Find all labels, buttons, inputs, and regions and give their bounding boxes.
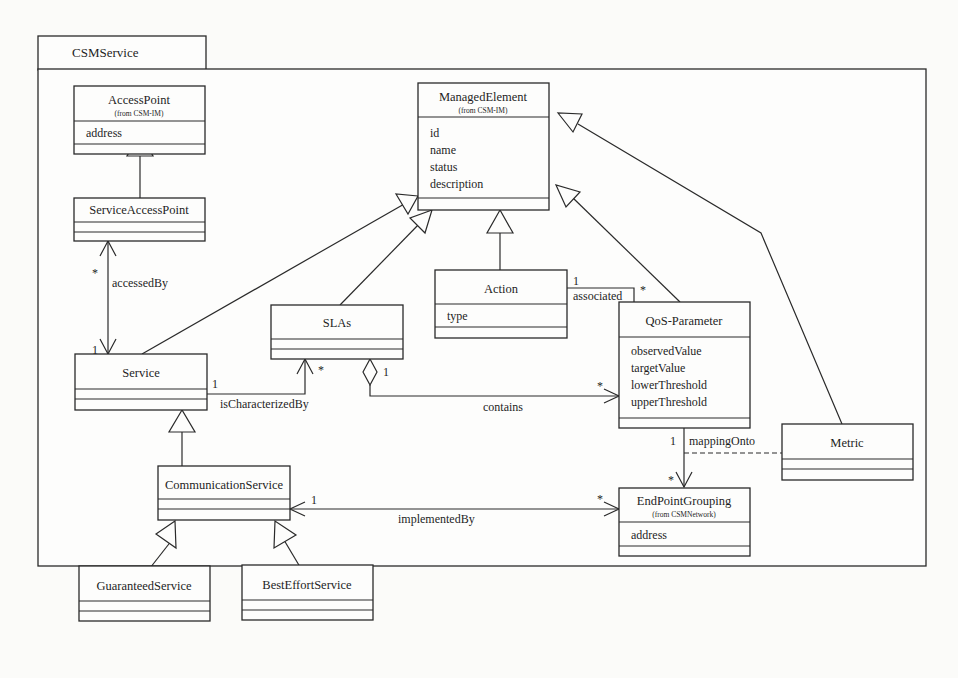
association-label: accessedBy [112, 276, 168, 290]
class-besteffortservice[interactable]: BestEffortService [242, 565, 373, 620]
class-name: Metric [830, 436, 864, 450]
multiplicity: * [640, 283, 646, 297]
association-label: associated [573, 289, 622, 303]
multiplicity: * [597, 379, 603, 393]
class-attribute: lowerThreshold [631, 378, 707, 392]
class-attribute: address [631, 528, 667, 542]
multiplicity: 1 [212, 377, 218, 391]
class-service[interactable]: Service [75, 354, 207, 410]
uml-class-diagram: CSMService * accessedBy 1 [0, 0, 958, 678]
class-guaranteedservice[interactable]: GuaranteedService [79, 566, 210, 621]
class-name: EndPointGrouping [637, 494, 732, 508]
class-origin: (from CSM-IM) [459, 106, 508, 115]
class-attribute: targetValue [631, 361, 685, 375]
class-name: BestEffortService [262, 578, 352, 592]
class-communicationservice[interactable]: CommunicationService [158, 466, 290, 520]
class-qos-parameter[interactable]: QoS-Parameter observedValue targetValue … [619, 302, 750, 428]
association-label: implementedBy [398, 512, 475, 526]
multiplicity: 1 [311, 493, 317, 507]
class-slas[interactable]: SLAs [271, 305, 403, 359]
class-name: ServiceAccessPoint [89, 203, 189, 217]
class-attribute: type [447, 309, 468, 323]
class-attribute: id [430, 126, 439, 140]
class-endpointgrouping[interactable]: EndPointGrouping (from CSMNetwork) addre… [619, 488, 750, 556]
class-managedelement[interactable]: ManagedElement (from CSM-IM) id name sta… [418, 83, 549, 210]
class-name: CommunicationService [165, 478, 283, 492]
class-name: Action [484, 282, 519, 296]
multiplicity: * [668, 473, 674, 487]
association-label: contains [483, 400, 523, 414]
class-action[interactable]: Action type [435, 270, 567, 338]
multiplicity: * [318, 363, 324, 377]
class-attribute: observedValue [631, 344, 702, 358]
package-name: CSMService [72, 45, 139, 60]
class-name: ManagedElement [439, 90, 528, 104]
class-origin: (from CSM-IM) [115, 109, 164, 118]
multiplicity: * [597, 492, 603, 506]
class-accesspoint[interactable]: AccessPoint (from CSM-IM) address [74, 86, 205, 154]
multiplicity: 1 [670, 434, 676, 448]
class-attribute: status [430, 160, 458, 174]
class-origin: (from CSMNetwork) [652, 510, 716, 519]
class-name: Service [122, 366, 160, 380]
class-attribute: upperThreshold [631, 395, 707, 409]
class-name: QoS-Parameter [645, 314, 723, 328]
association-label: isCharacterizedBy [220, 397, 309, 411]
class-serviceaccesspoint[interactable]: ServiceAccessPoint [74, 198, 205, 241]
class-name: SLAs [323, 316, 352, 330]
multiplicity: * [92, 266, 98, 280]
class-name: AccessPoint [108, 93, 170, 107]
multiplicity: 1 [573, 274, 579, 288]
class-metric[interactable]: Metric [782, 424, 913, 480]
association-label: mappingOnto [689, 434, 755, 448]
class-attribute: description [430, 177, 483, 191]
class-attribute: name [430, 143, 456, 157]
class-attribute: address [86, 126, 122, 140]
multiplicity: 1 [383, 365, 389, 379]
class-name: GuaranteedService [96, 579, 192, 593]
